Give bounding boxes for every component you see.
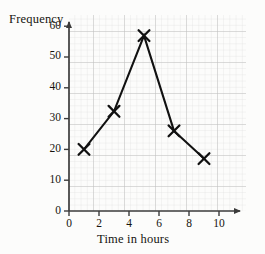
y-tick-label-30: 30 (39, 111, 61, 123)
y-tick-label-60: 60 (39, 19, 61, 31)
frequency-time-line-graph: Frequency Time in hours 0 10 20 30 40 50… (0, 0, 265, 254)
x-axis-title: Time in hours (97, 232, 169, 247)
y-tick-label-20: 20 (39, 142, 61, 154)
x-tick-label-4: 4 (121, 217, 137, 229)
x-tick-label-10: 10 (211, 217, 227, 229)
x-tick-label-0: 0 (61, 217, 77, 229)
x-tick-label-2: 2 (91, 217, 107, 229)
y-tick-label-50: 50 (39, 49, 61, 61)
x-tick-label-8: 8 (181, 217, 197, 229)
y-tick-label-10: 10 (39, 173, 61, 185)
y-tick-label-40: 40 (39, 80, 61, 92)
x-tick-label-6: 6 (151, 217, 167, 229)
y-tick-label-0: 0 (39, 204, 61, 216)
grid-layer (69, 15, 246, 211)
